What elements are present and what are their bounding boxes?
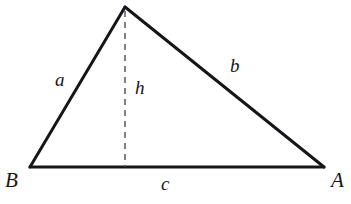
side-label-c: c [161,174,169,193]
side-b-segment [125,7,324,167]
side-label-b: b [230,56,240,75]
geometry-figure: B A a b h c [0,0,351,204]
side-label-a: a [55,70,65,89]
side-a-segment [30,7,125,167]
triangle-diagram-canvas [0,0,351,204]
vertex-label-b: B [5,170,18,191]
altitude-label-h: h [135,78,145,97]
vertex-label-a: A [331,170,344,191]
